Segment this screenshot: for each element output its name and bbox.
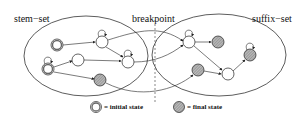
node-s4 — [72, 54, 84, 66]
node-s2 — [96, 36, 108, 48]
node-t4 — [222, 68, 234, 80]
node-s5-initial — [42, 63, 54, 75]
suffix-set-region — [152, 14, 286, 96]
legend-final-label: = final state — [187, 103, 222, 111]
suffix-set-label: suffix−set — [252, 13, 292, 24]
legend-final-symbol — [174, 102, 185, 113]
node-s3 — [122, 56, 134, 68]
breakpoint-label: breakpoint — [132, 13, 175, 24]
node-t3-final — [244, 49, 256, 61]
node-t1 — [183, 36, 195, 48]
stem-set-label: stem−set — [14, 13, 50, 24]
legend-initial-label: = initial state — [104, 103, 143, 111]
node-s1-initial — [51, 39, 63, 51]
node-s6-final — [94, 74, 106, 86]
node-t2-final — [212, 36, 224, 48]
node-t5-final — [192, 64, 204, 76]
legend-initial-symbol — [91, 102, 102, 113]
